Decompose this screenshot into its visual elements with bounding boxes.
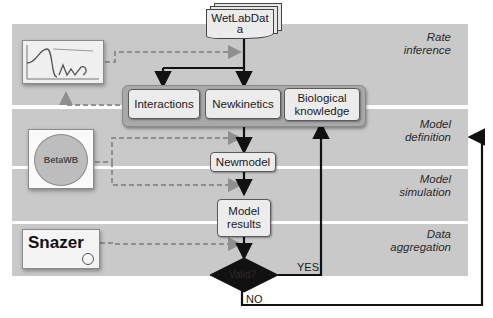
- no-label: NO: [246, 293, 263, 305]
- betawb-label: BetaWB: [44, 155, 79, 165]
- betawb-tool-logo[interactable]: BetaWB: [28, 129, 94, 189]
- biological-knowledge-box[interactable]: Biological knowledge: [284, 88, 360, 121]
- model-results-box[interactable]: Model results: [217, 199, 271, 237]
- input-label-line2: a: [237, 24, 243, 35]
- newkinetics-box[interactable]: Newkinetics: [205, 89, 281, 119]
- interactions-box[interactable]: Interactions: [128, 89, 200, 119]
- yes-label: YES: [297, 261, 319, 273]
- snazer-label: Snazer: [28, 233, 84, 253]
- plot-icon: [23, 41, 103, 83]
- decision-label: Valid?: [229, 269, 256, 280]
- globe-icon: [82, 253, 94, 265]
- wetlabdata-input: WetLabDat a: [206, 3, 286, 39]
- snazer-tool-logo[interactable]: Snazer: [22, 229, 100, 269]
- newmodel-box[interactable]: Newmodel: [210, 152, 276, 172]
- rate-plot-tool-logo[interactable]: [22, 40, 104, 84]
